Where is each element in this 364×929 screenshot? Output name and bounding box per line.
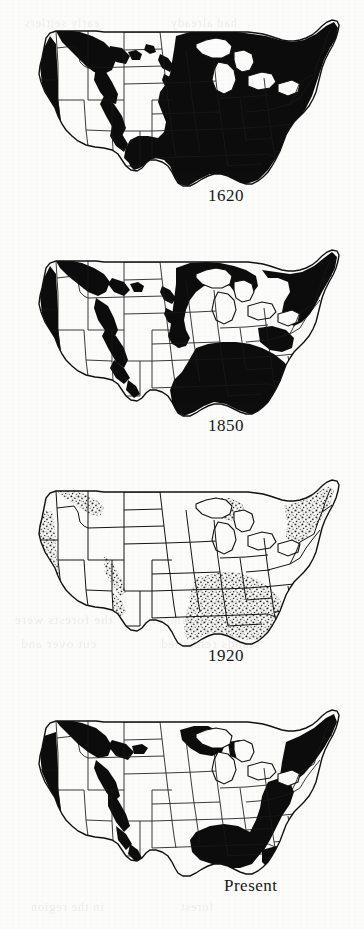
panel-label-1620: 1620 [208,186,244,206]
map-1620 [0,0,364,232]
map-1850 [0,230,364,462]
panel-label-present: Present [224,876,278,896]
map-panel-1920: 1920 [0,460,364,692]
map-present [0,690,364,922]
panel-label-1850: 1850 [208,416,244,436]
map-panel-1620: 1620 [0,0,364,232]
panel-label-1920: 1920 [208,646,244,666]
map-panel-1850: 1850 [0,230,364,462]
forest-cover-figure: 1620 1850 1920 [0,0,364,929]
map-panel-present: Present [0,690,364,922]
map-1920 [0,460,364,692]
